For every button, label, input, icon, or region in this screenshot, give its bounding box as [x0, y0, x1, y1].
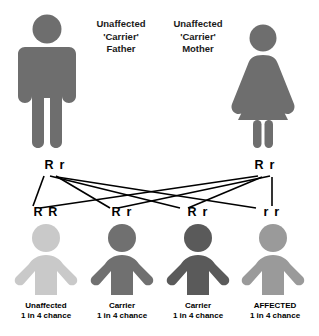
child-4-group — [241, 223, 305, 295]
child-4-genotype: r r — [246, 205, 298, 219]
child-4-caption: AFFECTED1 in 4 chance — [232, 301, 318, 322]
child-2-status: Carrier — [109, 301, 135, 310]
child-4-status: AFFECTED — [254, 301, 297, 310]
child-figure-icon — [90, 223, 154, 295]
child-1-chance: 1 in 4 chance — [21, 311, 71, 320]
child-3-chance: 1 in 4 chance — [173, 311, 223, 320]
child-1-caption: Unaffected1 in 4 chance — [4, 301, 88, 322]
child-4-chance: 1 in 4 chance — [250, 311, 300, 320]
child-2-genotype: R r — [96, 205, 148, 219]
child-figure-icon — [241, 223, 305, 295]
inheritance-diagram: Unaffected 'Carrier' Father R r Unaffect… — [0, 0, 319, 336]
child-1-status: Unaffected — [25, 301, 66, 310]
child-3-group — [166, 223, 230, 295]
child-1-genotype: R R — [20, 205, 72, 219]
child-3-caption: Carrier1 in 4 chance — [156, 301, 240, 322]
child-2-group — [90, 223, 154, 295]
child-3-genotype: R r — [172, 205, 224, 219]
child-1-group — [14, 223, 78, 295]
child-2-chance: 1 in 4 chance — [97, 311, 147, 320]
child-figure-icon — [166, 223, 230, 295]
child-2-caption: Carrier1 in 4 chance — [80, 301, 164, 322]
child-figure-icon — [14, 223, 78, 295]
child-3-status: Carrier — [185, 301, 211, 310]
